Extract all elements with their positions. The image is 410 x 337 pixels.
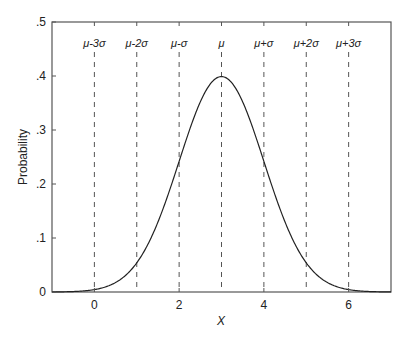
sigma-label: μ-2σ (125, 37, 149, 49)
sigma-label: μ-σ (170, 37, 188, 49)
sigma-label: μ (217, 37, 224, 49)
sigma-annotations: μ-3σμ-2σμ-σμμ+σμ+2σμ+3σ (82, 37, 361, 49)
sigma-label: μ+3σ (335, 37, 362, 49)
y-tick-label: .5 (36, 15, 46, 29)
y-tick-label: 0 (39, 285, 46, 299)
y-tick-label: .1 (36, 231, 46, 245)
y-tick-label: .2 (36, 177, 46, 191)
sigma-label: μ-3σ (82, 37, 106, 49)
x-tick-label: 2 (176, 298, 183, 312)
sigma-label: μ+2σ (293, 37, 320, 49)
x-tick-label: 0 (91, 298, 98, 312)
y-axis-ticks: 0.1.2.3.4.5 (36, 15, 56, 299)
x-tick-label: 4 (261, 298, 268, 312)
chart: 0246 0.1.2.3.4.5 μ-3σμ-2σμ-σμμ+σμ+2σμ+3σ… (0, 0, 410, 337)
y-axis-title: Probability (16, 129, 30, 185)
x-tick-label: 6 (345, 298, 352, 312)
reference-lines (94, 22, 348, 292)
sigma-label: μ+σ (253, 37, 273, 49)
x-axis-title: X (216, 314, 226, 328)
y-tick-label: .3 (36, 123, 46, 137)
y-tick-label: .4 (36, 69, 46, 83)
